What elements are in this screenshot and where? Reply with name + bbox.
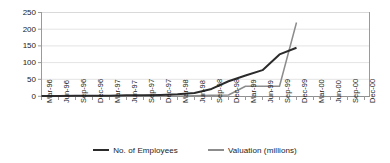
x-tick-label: Mar-97: [113, 79, 122, 103]
chart-legend: No. of Employees Valuation (millions): [0, 140, 390, 160]
x-tick-label: Sep-99: [283, 79, 292, 103]
y-tick-label: 50: [14, 75, 36, 84]
x-tick-label: Dec-99: [300, 79, 309, 103]
y-tick-label: 250: [14, 8, 36, 17]
plot-area: [0, 0, 390, 163]
x-tick-label: Sep-00: [351, 79, 360, 103]
x-tick-label: Dec-98: [232, 79, 241, 103]
x-tick-label: Jun-96: [62, 80, 71, 103]
x-tick-label: Jun-99: [266, 80, 275, 103]
y-tick-label: 150: [14, 41, 36, 50]
legend-item-valuation: Valuation (millions): [208, 146, 297, 155]
y-tick-label: 200: [14, 25, 36, 34]
y-tick-label: 100: [14, 58, 36, 67]
legend-line-swatch-valuation: [208, 149, 224, 150]
x-tick-label: Jun-00: [334, 80, 343, 103]
x-tick-label: Sep-98: [215, 79, 224, 103]
x-tick-label: Mar-00: [317, 79, 326, 103]
x-tick-label: Mar-99: [249, 79, 258, 103]
legend-line-swatch-employees: [93, 149, 109, 151]
legend-item-employees: No. of Employees: [93, 146, 178, 155]
company-growth-line-chart: 250 200 150 100 50 0 Mar-96Jun-96Sep-96D…: [0, 0, 390, 163]
x-tick-label: Jun-97: [130, 80, 139, 103]
y-tick-label: 0: [14, 92, 36, 101]
x-tick-label: Mar-98: [181, 79, 190, 103]
x-tick-label: Dec-96: [96, 79, 105, 103]
legend-label-valuation: Valuation (millions): [228, 146, 297, 155]
y-tick-marks: [38, 13, 41, 97]
x-tick-label: Sep-96: [79, 79, 88, 103]
x-tick-label: Mar-96: [45, 79, 54, 103]
x-tick-label: Dec-00: [368, 79, 377, 103]
gridlines: [41, 13, 370, 80]
x-tick-label: Dec-97: [164, 79, 173, 103]
x-tick-label: Sep-97: [147, 79, 156, 103]
legend-label-employees: No. of Employees: [113, 146, 178, 155]
x-tick-label: Jun-98: [198, 80, 207, 103]
